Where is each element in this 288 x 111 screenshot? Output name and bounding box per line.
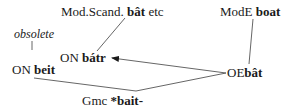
node-on-batr: ON bátr — [60, 51, 106, 65]
node-mod-e: ModE boat — [220, 5, 280, 19]
edge-oebat-onbatr-arrow — [112, 58, 226, 73]
edge-modscand-onbatr — [97, 18, 125, 51]
node-obsolete: obsolete — [14, 27, 54, 41]
node-mod-scand: Mod.Scand. bât etc — [61, 5, 164, 19]
node-on-beit: ON beit — [12, 63, 55, 77]
edge-mode-oebat — [249, 19, 253, 64]
node-oe-bat: OEbât — [227, 66, 262, 80]
node-gmc: Gmc *bait- — [82, 94, 143, 108]
edge-onbeit-gmc-oebat — [34, 73, 226, 91]
